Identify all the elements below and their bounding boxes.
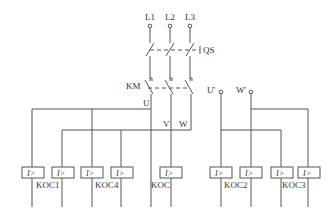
terminal-l1-label: L1 — [145, 12, 155, 22]
bus-v-label: V — [163, 119, 170, 129]
terminal-w-prime-icon — [249, 90, 253, 94]
relay-koc1-label: KOC1 — [36, 180, 60, 190]
km-blade-3 — [185, 80, 193, 94]
relay-symbol-5: I> — [214, 169, 223, 178]
terminal-u-prime-icon — [219, 90, 223, 94]
relay-koc4-label: KOC4 — [95, 180, 119, 190]
relay-symbol-8: I> — [302, 169, 311, 178]
relay-symbol-3: I> — [85, 169, 94, 178]
terminal-l3-label: L3 — [185, 12, 195, 22]
terminal-l3-icon — [188, 24, 192, 28]
terminal-l2-icon — [168, 24, 172, 28]
bus-u-label: U — [143, 98, 150, 108]
relay-symbol-koc: I> — [164, 169, 173, 178]
terminal-l1-icon — [148, 24, 152, 28]
relay-koc2-label: KOC2 — [224, 180, 248, 190]
terminal-w-prime-label: W' — [236, 85, 246, 95]
overcurrent-relay-schematic: L1 L2 L3 QS KM U V W I> I> I> I> — [0, 0, 336, 221]
bus-w-label: W — [179, 119, 188, 129]
qs-label: QS — [203, 45, 215, 55]
relay-koc-label: KOC — [151, 180, 170, 190]
km-blade-2 — [165, 80, 173, 94]
relay-symbol-4: I> — [115, 169, 124, 178]
relay-symbol-7: I> — [275, 169, 284, 178]
relay-symbol-1: I> — [26, 169, 35, 178]
km-blade-1 — [145, 80, 153, 94]
relay-koc3-label: KOC3 — [282, 180, 306, 190]
terminal-l2-label: L2 — [165, 12, 175, 22]
km-label: KM — [126, 81, 141, 91]
relay-symbol-6: I> — [244, 169, 253, 178]
relay-symbol-2: I> — [56, 169, 65, 178]
terminal-u-prime-label: U' — [207, 85, 215, 95]
